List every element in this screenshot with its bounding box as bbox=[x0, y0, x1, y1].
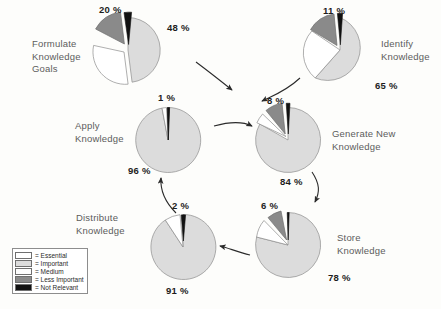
pie-chart-distribute-knowledge bbox=[151, 214, 216, 279]
legend-label-less-important: = Less Important bbox=[35, 276, 84, 283]
legend-item-medium: = Medium bbox=[15, 267, 84, 275]
pie-chart-apply-knowledge bbox=[136, 107, 201, 172]
arrow-formulate-to-identify bbox=[196, 62, 232, 90]
node-label-apply-knowledge: Apply Knowledge bbox=[75, 120, 137, 145]
arrow-apply-to-generate bbox=[214, 123, 252, 126]
node-label-generate-new-knowledge: Generate New Knowledge bbox=[332, 128, 414, 153]
arrow-store-to-distribute bbox=[220, 246, 250, 255]
legend-swatch-not-relevant bbox=[15, 284, 32, 291]
node-label-identify-knowledge: Identify Knowledge bbox=[381, 38, 439, 63]
pct-formulate-side: 48 % bbox=[167, 22, 190, 33]
legend-item-less-important: = Less Important bbox=[15, 275, 84, 283]
node-label-store-knowledge: Store Knowledge bbox=[337, 232, 397, 257]
pct-identify-top: 11 % bbox=[323, 5, 345, 16]
legend-item-not-relevant: = Not Relevant bbox=[15, 283, 84, 291]
pct-identify-side: 65 % bbox=[375, 80, 398, 91]
legend-label-not-relevant: = Not Relevant bbox=[35, 284, 78, 291]
pct-store-side: 78 % bbox=[328, 272, 351, 283]
pct-distribute-top: 2 % bbox=[172, 200, 189, 211]
legend-label-medium: = Medium bbox=[35, 268, 64, 275]
legend-label-important: = Important bbox=[35, 260, 68, 267]
pct-distribute-side: 91 % bbox=[166, 285, 189, 296]
node-label-distribute-knowledge: Distribute Knowledge bbox=[76, 212, 148, 237]
pct-apply-top: 1 % bbox=[158, 92, 175, 103]
pct-generate-top: 8 % bbox=[267, 95, 284, 106]
legend: = Essential = Important = Medium = Less … bbox=[12, 248, 88, 294]
pie-chart-identify-knowledge bbox=[303, 13, 360, 80]
legend-swatch-medium bbox=[15, 268, 32, 275]
pct-store-top: 6 % bbox=[261, 200, 278, 211]
arrow-generate-to-store bbox=[312, 172, 318, 202]
legend-label-essential: = Essential bbox=[35, 252, 67, 259]
legend-swatch-essential bbox=[15, 252, 32, 259]
legend-item-important: = Important bbox=[15, 259, 84, 267]
knowledge-management-cycle-diagram: Formulate Knowledge Goals Identify Knowl… bbox=[0, 0, 441, 309]
pct-formulate-top: 20 % bbox=[99, 4, 122, 15]
pie-chart-generate-new-knowledge bbox=[256, 103, 321, 172]
legend-item-essential: = Essential bbox=[15, 251, 84, 259]
pct-generate-side: 84 % bbox=[280, 176, 303, 187]
pct-apply-side: 96 % bbox=[128, 165, 151, 176]
pie-chart-store-knowledge bbox=[256, 211, 321, 277]
legend-swatch-important bbox=[15, 260, 32, 267]
legend-swatch-less-important bbox=[15, 276, 32, 283]
node-label-formulate-knowledge-goals: Formulate Knowledge Goals bbox=[32, 38, 104, 76]
